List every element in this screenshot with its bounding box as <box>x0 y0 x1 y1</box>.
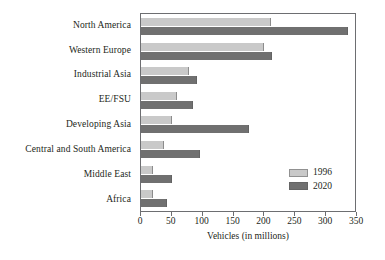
bar-2020-north-america <box>141 27 348 35</box>
bar-1996-africa <box>141 190 153 198</box>
x-axis-tick-label: 350 <box>349 217 363 227</box>
bar-group <box>141 63 355 88</box>
bar-group <box>141 39 355 64</box>
x-axis-tick-label: 100 <box>195 217 209 227</box>
y-axis-label: Developing Asia <box>0 113 136 138</box>
y-axis-label: Western Europe <box>0 38 136 63</box>
x-axis-tick-label: 150 <box>225 217 239 227</box>
y-axis-label: Middle East <box>0 162 136 187</box>
x-axis-tick-label: 300 <box>318 217 332 227</box>
legend-item: 1996 <box>289 168 332 178</box>
bar-1996-ee-fsu <box>141 92 177 100</box>
x-axis-tick-label: 250 <box>287 217 301 227</box>
bar-1996-developing-asia <box>141 116 172 124</box>
y-axis-label: North America <box>0 13 136 38</box>
y-axis-label: Industrial Asia <box>0 63 136 88</box>
y-axis-label: Africa <box>0 187 136 212</box>
bar-group <box>141 88 355 113</box>
bar-2020-middle-east <box>141 175 172 183</box>
legend-label: 2020 <box>313 182 332 192</box>
x-axis-tick-label: 0 <box>138 217 143 227</box>
bar-2020-developing-asia <box>141 125 249 133</box>
legend-swatch-icon <box>289 169 308 177</box>
bar-chart: North AmericaWestern EuropeIndustrial As… <box>0 0 385 260</box>
bar-group <box>141 113 355 138</box>
bar-1996-middle-east <box>141 166 153 174</box>
bar-2020-western-europe <box>141 52 272 60</box>
bar-group <box>141 14 355 39</box>
legend: 19962020 <box>289 168 332 191</box>
bar-group <box>141 137 355 162</box>
bar-2020-ee-fsu <box>141 101 193 109</box>
y-axis-label: Central and South America <box>0 137 136 162</box>
bar-1996-central-and-south-america <box>141 141 164 149</box>
y-axis-label: EE/FSU <box>0 88 136 113</box>
legend-swatch-icon <box>289 182 308 190</box>
legend-label: 1996 <box>313 168 332 178</box>
legend-item: 2020 <box>289 182 332 192</box>
bar-2020-industrial-asia <box>141 76 197 84</box>
bar-1996-industrial-asia <box>141 67 189 75</box>
bar-2020-africa <box>141 199 167 207</box>
bar-1996-north-america <box>141 18 271 26</box>
x-axis-tick-label: 50 <box>166 217 176 227</box>
y-axis-category-labels: North AmericaWestern EuropeIndustrial As… <box>0 13 136 212</box>
bar-1996-western-europe <box>141 43 264 51</box>
bar-2020-central-and-south-america <box>141 150 200 158</box>
x-axis-tick-label: 200 <box>256 217 270 227</box>
x-axis-title: Vehicles (in millions) <box>140 232 356 242</box>
